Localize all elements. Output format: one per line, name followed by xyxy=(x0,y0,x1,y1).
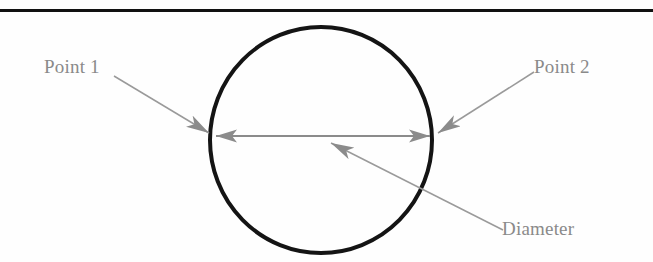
label-point-2: Point 2 xyxy=(534,57,590,77)
circle-diameter-diagram: Point 1 Point 2 Diameter xyxy=(0,0,653,262)
label-diameter: Diameter xyxy=(502,219,574,239)
label-point-1: Point 1 xyxy=(44,57,100,77)
horizontal-rule xyxy=(0,9,653,12)
